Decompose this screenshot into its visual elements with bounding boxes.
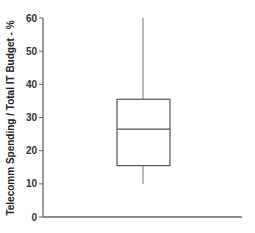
box-group xyxy=(117,18,170,184)
y-tick-label: 0 xyxy=(31,212,37,223)
y-tick-label: 40 xyxy=(26,79,38,90)
boxplot-chart: 0102030405060 Telecomm Spending / Total … xyxy=(0,0,255,233)
y-tick-label: 60 xyxy=(26,13,38,24)
y-tick-label: 30 xyxy=(26,112,38,123)
y-tick-label: 50 xyxy=(26,46,38,57)
y-tick-label: 10 xyxy=(26,178,38,189)
y-axis-title: Telecomm Spending / Total IT Budget - % xyxy=(5,20,16,215)
y-tick-label: 20 xyxy=(26,145,38,156)
iqr-box xyxy=(117,99,170,165)
y-axis: 0102030405060 xyxy=(26,13,43,223)
